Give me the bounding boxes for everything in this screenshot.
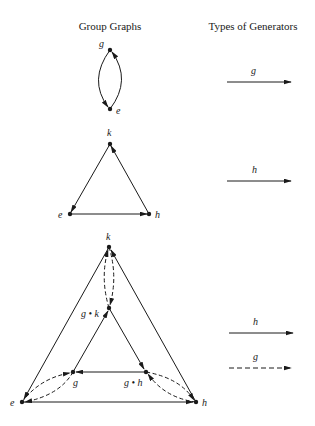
node-e: [108, 107, 112, 111]
label-k: k: [107, 127, 112, 138]
label-g: g: [73, 377, 78, 388]
edge-g-to-e: [98, 50, 110, 107]
label-g: g: [99, 38, 104, 49]
generator-legend: g h h g: [227, 65, 293, 368]
group-graphs-diagram: g e k e h k g •: [0, 0, 315, 426]
node-k: [107, 245, 111, 249]
node-g: [71, 370, 75, 374]
edge-g-to-gk: [73, 311, 108, 372]
node-k: [108, 142, 112, 146]
label-e: e: [116, 105, 121, 116]
node-e: [68, 212, 72, 216]
label-gh: g • h: [124, 377, 143, 388]
node-h: [147, 212, 151, 216]
edge-gk-to-k-dashed: [104, 250, 109, 308]
edge-h-to-gh-dashed: [148, 374, 196, 402]
label-h: h: [155, 209, 160, 220]
graph-cyclic-2: g e: [98, 38, 121, 116]
label-gk: g • k: [81, 308, 100, 319]
edge-h-to-k: [111, 146, 149, 214]
node-e: [20, 400, 24, 404]
node-gk: [107, 306, 111, 310]
edge-k-to-e: [71, 144, 110, 212]
legend-label-h-2: h: [252, 164, 257, 175]
label-e: e: [10, 397, 15, 408]
edge-g-to-e-dashed: [25, 372, 73, 402]
label-h: h: [202, 397, 207, 408]
legend-label-h-3: h: [253, 316, 258, 327]
label-e: e: [58, 209, 63, 220]
legend-label-g-1: g: [251, 65, 256, 76]
node-h: [194, 400, 198, 404]
label-k: k: [106, 231, 111, 242]
edge-gk-to-gh: [109, 308, 144, 369]
edge-k-to-gk-dashed: [109, 247, 114, 305]
legend-label-g-3: g: [253, 351, 258, 362]
edge-k-to-e: [24, 247, 109, 399]
node-g: [108, 48, 112, 52]
graph-cyclic-3: k e h: [58, 127, 160, 220]
edge-e-to-g: [110, 52, 122, 109]
edge-e-to-g-dashed: [22, 373, 70, 402]
graph-s3: k g • k g g • h e h: [10, 231, 207, 408]
node-gh: [144, 370, 148, 374]
